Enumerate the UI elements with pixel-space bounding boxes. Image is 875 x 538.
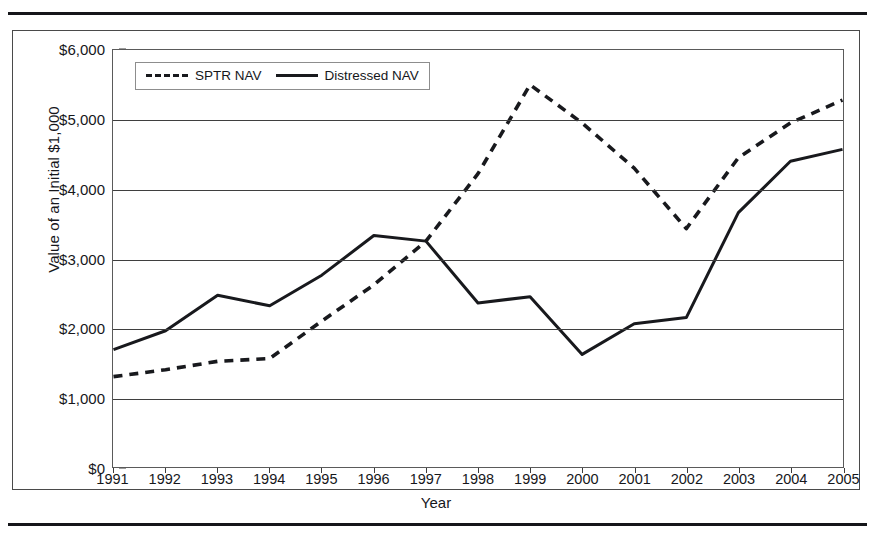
y-axis-tick-label: $4,000 (59, 180, 105, 197)
gridline (113, 190, 843, 191)
x-axis-tick-mark (530, 468, 531, 473)
x-axis-tick-mark (478, 468, 479, 473)
figure-page: Value of an Initial $1,000 $6,000$5,000$… (0, 0, 875, 538)
x-axis-tick-label: 1995 (305, 471, 337, 487)
x-axis-tick-label: 1996 (357, 471, 389, 487)
dashed-line-swatch-icon (146, 74, 188, 77)
x-axis-tick-mark (113, 468, 114, 473)
x-axis-tick-label: 1997 (410, 471, 442, 487)
gridline (113, 399, 843, 400)
chart-figure: Value of an Initial $1,000 $6,000$5,000$… (12, 30, 860, 490)
page-rule-bottom (8, 523, 867, 526)
series-line-sptr-nav (113, 85, 842, 377)
x-axis-tick-mark (426, 468, 427, 473)
series-line-distressed-nav (113, 149, 842, 354)
x-axis-tick-label: 2003 (723, 471, 755, 487)
x-axis-tick-label: 2000 (566, 471, 598, 487)
x-axis-tick-label: 1994 (253, 471, 285, 487)
x-axis-tick-label: 2002 (671, 471, 703, 487)
x-axis-tick-label: 2001 (619, 471, 651, 487)
y-axis-tick-label: $5,000 (59, 110, 105, 127)
x-axis-tick-label: 1993 (201, 471, 233, 487)
legend-item-distressed-nav: Distressed NAV (276, 68, 419, 83)
y-axis-tick-label: $1,000 (59, 390, 105, 407)
x-axis-tick-mark (269, 468, 270, 473)
x-axis-tick-labels: 1991199219931994199519961997199819992000… (112, 468, 844, 490)
x-axis-tick-mark (582, 468, 583, 473)
x-axis-tick-label: 1999 (514, 471, 546, 487)
x-axis-tick-mark (791, 468, 792, 473)
page-rule-top (8, 12, 867, 15)
x-axis-tick-mark (844, 468, 845, 473)
chart-lines (113, 50, 843, 467)
legend-label-distressed-nav: Distressed NAV (325, 68, 419, 83)
y-axis-tick-labels: $6,000$5,000$4,000$3,000$2,000$1,000$0 (27, 49, 105, 468)
x-axis-tick-mark (739, 468, 740, 473)
gridline (113, 329, 843, 330)
gridline (113, 120, 843, 121)
x-axis-tick-mark (687, 468, 688, 473)
y-axis-tick-label: $6,000 (59, 41, 105, 58)
x-axis-tick-mark (374, 468, 375, 473)
y-axis-tick-label: $2,000 (59, 320, 105, 337)
x-axis-tick-label: 1991 (96, 471, 128, 487)
x-axis-tick-mark (165, 468, 166, 473)
plot-area: SPTR NAV Distressed NAV (112, 49, 844, 468)
x-axis-tick-label: 2005 (827, 471, 859, 487)
x-axis-tick-label: 2004 (775, 471, 807, 487)
x-axis-tick-label: 1992 (149, 471, 181, 487)
legend-item-sptr-nav: SPTR NAV (146, 68, 262, 83)
x-axis-title: Year (13, 494, 859, 511)
gridline (113, 260, 843, 261)
x-axis-tick-mark (217, 468, 218, 473)
x-axis-tick-label: 1998 (462, 471, 494, 487)
chart-legend: SPTR NAV Distressed NAV (135, 62, 430, 90)
y-axis-tick-label: $3,000 (59, 250, 105, 267)
legend-label-sptr-nav: SPTR NAV (195, 68, 262, 83)
x-axis-tick-mark (635, 468, 636, 473)
x-axis-tick-mark (321, 468, 322, 473)
solid-line-swatch-icon (276, 74, 318, 77)
